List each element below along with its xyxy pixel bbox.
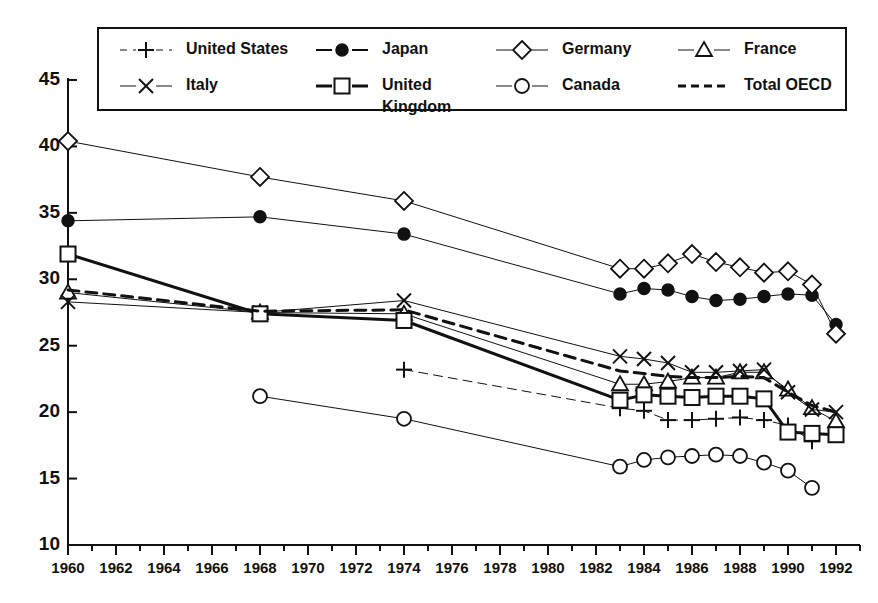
legend-label: United (382, 76, 432, 93)
legend-label: Italy (186, 76, 218, 93)
x-tick-label: 1972 (339, 559, 372, 576)
x-tick-label: 1984 (627, 559, 661, 576)
series-germany (59, 132, 845, 343)
legend-item-united-states[interactable]: United States (120, 40, 288, 58)
legend-item-canada[interactable]: Canada (496, 76, 620, 93)
x-tick-label: 1964 (147, 559, 181, 576)
legend: United StatesJapanGermanyFranceItalyUnit… (98, 28, 846, 115)
chart-container: 1015202530354045196019621964196619681970… (0, 0, 878, 603)
x-tick-label: 1960 (51, 559, 84, 576)
y-tick-label: 40 (39, 134, 60, 155)
x-tick-label: 1968 (243, 559, 276, 576)
x-tick-label: 1976 (435, 559, 468, 576)
x-tick-label: 1978 (483, 559, 516, 576)
legend-item-total-oecd[interactable]: Total OECD (678, 76, 832, 93)
y-tick-label: 20 (39, 400, 60, 421)
legend-label: Germany (562, 40, 631, 57)
legend-label: Japan (382, 40, 428, 57)
plot-area (59, 132, 845, 495)
y-tick-label: 30 (39, 267, 60, 288)
legend-label: United States (186, 40, 288, 57)
x-tick-label: 1974 (387, 559, 421, 576)
x-tick-label: 1980 (531, 559, 564, 576)
legend-label-cont: Kingdom (382, 98, 451, 115)
x-tick-label: 1990 (771, 559, 804, 576)
legend-label: Canada (562, 76, 620, 93)
y-tick-label: 45 (39, 68, 61, 89)
axes (68, 78, 860, 545)
legend-item-japan[interactable]: Japan (316, 40, 428, 57)
legend-item-germany[interactable]: Germany (496, 40, 631, 59)
x-tick-label: 1986 (675, 559, 708, 576)
series-united-kingdom (61, 247, 844, 443)
y-tick-label: 15 (39, 467, 61, 488)
x-tick-label: 1988 (723, 559, 756, 576)
legend-item-france[interactable]: France (678, 40, 797, 57)
series-france (60, 285, 844, 428)
y-tick-label: 25 (39, 334, 61, 355)
x-axis-ticks: 1960196219641966196819701972197419761978… (51, 545, 860, 576)
x-tick-label: 1970 (291, 559, 324, 576)
line-chart: 1015202530354045196019621964196619681970… (0, 0, 878, 603)
y-tick-label: 10 (39, 533, 60, 554)
x-tick-label: 1982 (579, 559, 612, 576)
x-tick-label: 1966 (195, 559, 228, 576)
y-tick-label: 35 (39, 201, 61, 222)
x-tick-label: 1992 (819, 559, 852, 576)
legend-label: France (744, 40, 797, 57)
series-canada (253, 389, 819, 495)
legend-item-italy[interactable]: Italy (120, 76, 218, 93)
x-tick-label: 1962 (99, 559, 132, 576)
series-italy (61, 294, 843, 420)
legend-label: Total OECD (744, 76, 832, 93)
